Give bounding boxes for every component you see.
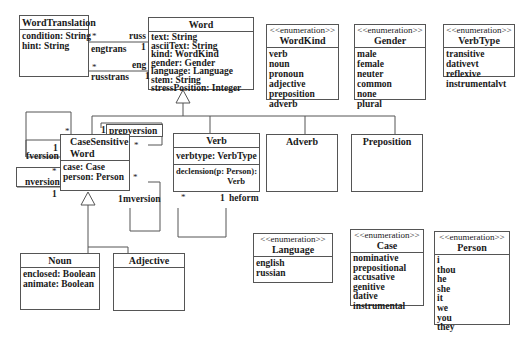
class-case-sensitive-word[interactable]: CaseSensitive Word case: Case person: Pe… xyxy=(60,134,130,191)
class-preposition[interactable]: Preposition xyxy=(351,134,423,192)
assoc-fversion: fversion xyxy=(26,151,59,161)
enum-name: Language xyxy=(254,244,332,256)
enum-gender[interactable]: <<enumeration>> Gender male female neute… xyxy=(354,24,426,100)
class-name: WordTranslation xyxy=(20,16,88,29)
class-attributes: condition: String hint: String xyxy=(20,29,88,52)
enum-values: nominative prepositional accusative geni… xyxy=(351,252,423,312)
class-adverb[interactable]: Adverb xyxy=(266,134,338,192)
enum-values: english russian xyxy=(254,256,332,279)
mult-heform-many: * xyxy=(181,193,186,202)
class-name: Noun xyxy=(21,254,99,267)
assoc-nversion: nversion xyxy=(25,177,60,187)
mult-russtrans-source: * xyxy=(92,63,97,72)
stereotype: <<enumeration>> xyxy=(444,25,514,35)
class-name: Word xyxy=(149,18,253,31)
enum-name: Case xyxy=(351,240,423,252)
class-attributes: verbtype: VerbType xyxy=(174,147,259,164)
enum-person[interactable]: <<enumeration>> Person i thou he she it … xyxy=(434,231,510,325)
class-operations: declension(p: Person): Verb xyxy=(174,164,259,187)
enum-values: verb noun pronoun adjective preposition … xyxy=(267,47,338,110)
enum-name: WordKind xyxy=(267,35,338,47)
mult-mversion-many: * xyxy=(133,173,138,182)
class-name: Verb xyxy=(174,134,259,147)
stereotype: <<enumeration>> xyxy=(355,25,425,35)
stereotype: <<enumeration>> xyxy=(351,230,423,240)
class-noun[interactable]: Noun enclosed: Boolean animate: Boolean xyxy=(20,253,100,310)
class-name: Adjective xyxy=(114,254,184,267)
stereotype: <<enumeration>> xyxy=(254,234,332,244)
role-eng: eng xyxy=(132,60,146,70)
mult-engtrans-target: 1 xyxy=(141,42,146,52)
class-name: Adverb xyxy=(267,135,337,148)
enum-values: transitive dativevt reflexive instrument… xyxy=(444,47,514,90)
mult-heform-one: 1 xyxy=(220,193,225,203)
class-divider xyxy=(114,267,184,268)
role-russ: russ xyxy=(129,31,146,41)
mult-russtrans-target: 1 xyxy=(145,71,150,81)
class-adjective[interactable]: Adjective xyxy=(113,253,185,311)
mult-nversion-many: * xyxy=(52,167,57,176)
enum-name: VerbType xyxy=(444,35,514,47)
assoc-heform: heform xyxy=(229,193,259,203)
assoc-russtrans: russtrans xyxy=(91,72,129,82)
class-attributes: case: Case person: Person xyxy=(61,160,129,183)
mult-fversion-many: * xyxy=(65,127,70,136)
class-word[interactable]: Word text: String asciiText: String kind… xyxy=(148,17,254,90)
mult-nversion-one: 1 xyxy=(52,189,57,199)
enum-name: Person xyxy=(435,242,509,254)
enum-name: Gender xyxy=(355,35,425,47)
enum-language[interactable]: <<enumeration>> Language english russian xyxy=(253,233,333,283)
class-word-translation[interactable]: WordTranslation condition: String hint: … xyxy=(19,15,89,77)
class-name: Preposition xyxy=(352,135,422,148)
enum-case[interactable]: <<enumeration>> Case nominative preposit… xyxy=(350,229,424,306)
mult-prepversion-many: * xyxy=(134,141,139,150)
class-name-line2: Word xyxy=(61,148,129,160)
enum-values: male female neuter common none plural xyxy=(355,47,425,110)
class-attributes: text: String asciiText: String kind: Wor… xyxy=(149,31,253,94)
stereotype: <<enumeration>> xyxy=(267,25,338,35)
class-verb[interactable]: Verb verbtype: VerbType declension(p: Pe… xyxy=(173,133,260,192)
assoc-engtrans: engtrans xyxy=(91,44,126,54)
enum-values: i thou he she it we you they xyxy=(435,254,509,334)
stereotype: <<enumeration>> xyxy=(435,232,509,242)
enum-verb-type[interactable]: <<enumeration>> VerbType transitive dati… xyxy=(443,24,515,77)
class-attributes: enclosed: Boolean animate: Boolean xyxy=(21,267,99,290)
enum-word-kind[interactable]: <<enumeration>> WordKind verb noun prono… xyxy=(266,24,339,100)
assoc-mversion: mversion xyxy=(123,194,160,204)
class-name-line1: CaseSensitive xyxy=(61,135,129,148)
mult-engtrans-source: * xyxy=(92,32,97,41)
